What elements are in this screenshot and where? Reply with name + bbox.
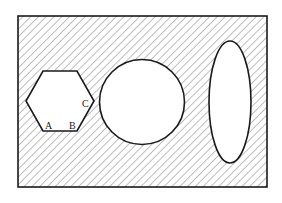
hexagon-label-a: A [45,120,53,131]
ellipse-shape [209,41,251,163]
diagram-canvas: A B C [0,0,282,203]
hexagon-label-b: B [69,120,76,131]
circle-shape [100,60,185,145]
hexagon-label-c: C [82,98,89,109]
